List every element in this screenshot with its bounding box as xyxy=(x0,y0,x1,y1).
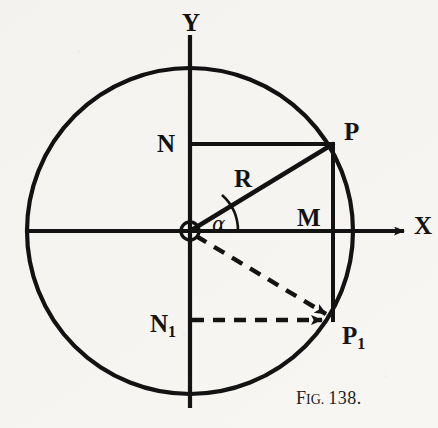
angle-label-alpha: α xyxy=(212,214,226,234)
point-label-n1-letter: N xyxy=(150,310,168,337)
figure-caption: FIG. 138. xyxy=(296,388,362,409)
segment-label-r: R xyxy=(234,166,252,191)
point-label-n1: N1 xyxy=(150,311,176,336)
dashed-segment-O-P1 xyxy=(196,236,326,314)
caption-number: 138. xyxy=(328,388,362,408)
caption-prefix-rest: IG xyxy=(306,392,321,407)
point-label-n: N xyxy=(157,131,175,156)
caption-prefix-initial: F xyxy=(296,388,306,408)
point-label-p1-letter: P xyxy=(342,322,357,349)
axis-label-y: Y xyxy=(182,10,200,35)
point-label-p: P xyxy=(344,119,359,144)
point-label-m: M xyxy=(297,205,321,230)
point-label-p1-subscript: 1 xyxy=(357,335,365,352)
axis-label-x: X xyxy=(414,213,432,238)
point-label-p1: P1 xyxy=(342,323,365,348)
figure-container: Y X P P1 N N1 M R α FIG. 138. xyxy=(0,0,438,428)
caption-dot: . xyxy=(321,392,325,407)
point-label-n1-subscript: 1 xyxy=(168,323,176,340)
